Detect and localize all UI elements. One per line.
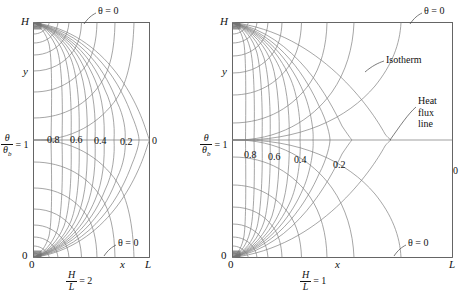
right-contour-label-04: 0.4 bbox=[294, 155, 307, 165]
right-label-x-axis: x bbox=[335, 259, 340, 270]
left-contour-label-04: 0.4 bbox=[94, 136, 107, 146]
right-contour-label-06: 0.6 bbox=[268, 152, 281, 162]
left-theta-numerator: θ bbox=[1, 133, 13, 144]
annotation-heat-flux-line-2: flux bbox=[418, 107, 437, 119]
left-caption-numerator: H bbox=[66, 270, 77, 281]
left-theta-equals: = 1 bbox=[15, 140, 28, 150]
right-caption-denominator: L bbox=[300, 281, 311, 293]
right-label-H: H bbox=[220, 16, 228, 27]
right-theta-denominator: θb bbox=[200, 144, 212, 158]
left-label-x-axis: x bbox=[120, 259, 125, 270]
right-contour-label-08: 0.8 bbox=[244, 150, 257, 160]
annotation-heat-flux-line: Heat flux line bbox=[418, 95, 437, 130]
left-contour-label-08: 0.8 bbox=[47, 135, 60, 145]
right-boundary-label-bottom: θ = 0 bbox=[408, 238, 428, 248]
right-theta-fraction: θ θb bbox=[200, 133, 212, 158]
left-caption: H L = 2 bbox=[66, 270, 92, 292]
right-contour-label-0: 0 bbox=[453, 166, 458, 176]
left-boundary-label-bottom: θ = 0 bbox=[118, 238, 138, 248]
annotation-heat-flux-line-3: line bbox=[418, 118, 437, 130]
flux-plot-svg: .fl{fill:none;stroke:#808080;stroke-widt… bbox=[0, 0, 463, 297]
left-boundary-label-top: θ = 0 bbox=[98, 6, 118, 16]
right-caption-numerator: H bbox=[300, 270, 311, 281]
left-theta-fraction: θ θb bbox=[1, 133, 13, 158]
left-theta-ratio: θ θb = 1 bbox=[1, 133, 29, 158]
right-label-y-axis: y bbox=[222, 66, 227, 77]
left-contour-label-0: 0 bbox=[152, 136, 157, 146]
right-theta-equals: = 1 bbox=[214, 140, 227, 150]
right-label-L: L bbox=[449, 259, 455, 270]
left-caption-equals: = 2 bbox=[79, 276, 92, 286]
left-isotherms-upper bbox=[34, 23, 135, 141]
left-label-H: H bbox=[21, 16, 29, 27]
annotation-isotherm: Isotherm bbox=[386, 55, 422, 65]
left-flux-lines-upper bbox=[34, 23, 150, 141]
right-caption-fraction: H L bbox=[300, 270, 311, 292]
right-theta-ratio: θ θb = 1 bbox=[200, 133, 228, 158]
left-contour-label-06: 0.6 bbox=[70, 135, 83, 145]
left-caption-denominator: L bbox=[66, 281, 77, 293]
left-label-y-axis: y bbox=[23, 66, 28, 77]
left-contour-label-02: 0.2 bbox=[120, 137, 133, 147]
left-caption-fraction: H L bbox=[66, 270, 77, 292]
left-theta-denominator: θb bbox=[1, 144, 13, 158]
annotation-heat-flux-line-1: Heat bbox=[418, 95, 437, 107]
left-label-L: L bbox=[145, 259, 151, 270]
right-flux-lines-upper bbox=[233, 23, 392, 141]
left-label-origin-left: 0 bbox=[22, 250, 28, 261]
figure-two-flux-plots: .fl{fill:none;stroke:#808080;stroke-widt… bbox=[0, 0, 463, 297]
right-caption: H L = 1 bbox=[300, 270, 326, 292]
right-label-origin-left: 0 bbox=[221, 250, 227, 261]
right-label-origin-bottom: 0 bbox=[228, 259, 234, 270]
panel-right-plot bbox=[233, 13, 453, 258]
right-boundary-label-top: θ = 0 bbox=[424, 6, 444, 16]
right-theta-numerator: θ bbox=[200, 133, 212, 144]
left-label-origin-bottom: 0 bbox=[29, 259, 35, 270]
right-contour-label-02: 0.2 bbox=[333, 160, 346, 170]
right-caption-equals: = 1 bbox=[313, 276, 326, 286]
